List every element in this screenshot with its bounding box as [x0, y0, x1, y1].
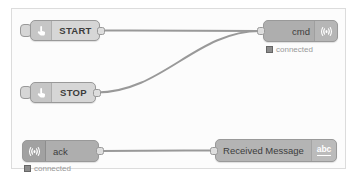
node-cmd-label: cmd: [264, 26, 314, 37]
status-dot: [24, 165, 31, 172]
port-output-ack[interactable]: [96, 147, 104, 155]
broadcast-icon: [23, 141, 46, 161]
port-output-stop[interactable]: [93, 89, 101, 97]
hand-pointer-icon: [31, 21, 52, 40]
status-text: connected: [276, 45, 313, 54]
node-received-message[interactable]: Received Message abc: [215, 139, 337, 162]
abc-icon: abc: [311, 140, 336, 161]
wire-start-to-cmd[interactable]: [101, 31, 260, 32]
wire-ack-to-received[interactable]: [101, 151, 213, 152]
node-ack[interactable]: ack: [22, 140, 99, 162]
node-cmd-status: connected: [266, 45, 313, 54]
node-stop-label: STOP: [52, 87, 95, 98]
node-stop[interactable]: STOP: [30, 82, 96, 103]
node-cmd[interactable]: cmd: [263, 20, 338, 42]
hand-pointer-icon: [31, 83, 52, 102]
node-ack-label: ack: [46, 146, 98, 157]
port-input-received[interactable]: [210, 147, 218, 155]
port-output-start[interactable]: [97, 27, 105, 35]
node-start-label: START: [52, 25, 99, 36]
node-start[interactable]: START: [30, 20, 100, 41]
status-text: connected: [34, 164, 71, 173]
status-dot: [266, 46, 273, 53]
node-received-label: Received Message: [216, 145, 311, 156]
port-input-cmd[interactable]: [257, 27, 265, 35]
node-ack-status: connected: [24, 164, 71, 173]
broadcast-icon: [314, 21, 337, 41]
